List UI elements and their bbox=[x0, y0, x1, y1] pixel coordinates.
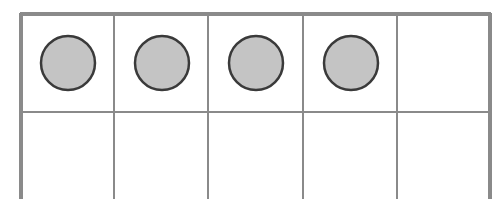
counter-circle bbox=[135, 36, 189, 90]
counter-circle bbox=[324, 36, 378, 90]
counter-circle bbox=[41, 36, 95, 90]
ten-frame bbox=[0, 0, 493, 199]
counter-circle bbox=[229, 36, 283, 90]
